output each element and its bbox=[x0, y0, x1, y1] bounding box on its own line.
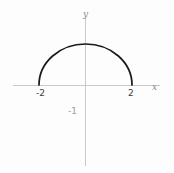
x-tick-label-pos-2: 2 bbox=[128, 89, 134, 98]
x-tick-label-neg-2: -2 bbox=[36, 89, 45, 98]
y-axis-label: y bbox=[83, 10, 88, 19]
plot-canvas bbox=[0, 0, 174, 173]
x-axis-label: x bbox=[152, 83, 157, 92]
y-tick-label-neg-1: -1 bbox=[68, 107, 77, 116]
semicircle-plot-figure: y x -2 2 -1 bbox=[0, 0, 174, 173]
